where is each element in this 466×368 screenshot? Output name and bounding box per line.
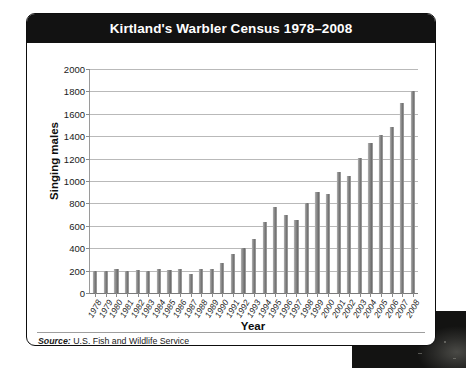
x-tick-mark: [106, 293, 107, 297]
y-axis-tick-1000: 1000: [64, 176, 85, 187]
bar-1999: [315, 192, 319, 293]
x-tick-mark: [275, 293, 276, 297]
y-axis-tick-1600: 1600: [64, 108, 85, 119]
x-tick-mark: [254, 293, 255, 297]
y-axis-tick-labels: 0200400600800100012001400160018002000: [51, 69, 85, 293]
x-tick-mark: [370, 293, 371, 297]
x-tick-mark: [212, 293, 213, 297]
bar-1990: [220, 263, 224, 293]
bar-2002: [347, 176, 351, 293]
bar-group-1992: 1992: [238, 69, 249, 293]
x-tick-mark: [307, 293, 308, 297]
bar-group-1990: 1990: [217, 69, 228, 293]
x-tick-mark: [116, 293, 117, 297]
bar-group-1989: 1989: [206, 69, 217, 293]
x-tick-mark: [243, 293, 244, 297]
bar-1979: [104, 271, 108, 293]
y-axis-tick-400: 400: [69, 243, 85, 254]
y-axis-tick-0: 0: [80, 288, 85, 299]
bar-2001: [337, 172, 341, 293]
x-tick-mark: [222, 293, 223, 297]
bar-1991: [231, 254, 235, 293]
bar-1992: [241, 248, 245, 293]
bar-group-1996: 1996: [280, 69, 291, 293]
bar-1982: [136, 270, 140, 293]
source-text: U.S. Fish and Wildlife Service: [73, 336, 189, 346]
bar-group-1978: 1978: [90, 69, 101, 293]
x-tick-mark: [265, 293, 266, 297]
bar-group-1999: 1999: [312, 69, 323, 293]
bar-group-2008: 2008: [407, 69, 418, 293]
x-tick-mark: [360, 293, 361, 297]
bar-2007: [400, 103, 404, 293]
x-tick-mark: [381, 293, 382, 297]
bar-1987: [188, 274, 192, 293]
bar-1998: [305, 203, 309, 293]
bar-2004: [368, 143, 372, 293]
chart-title: Kirtland's Warbler Census 1978–2008: [110, 21, 353, 36]
x-tick-mark: [138, 293, 139, 297]
bar-1997: [294, 220, 298, 293]
x-tick-mark: [339, 293, 340, 297]
y-axis-tick-2000: 2000: [64, 64, 85, 75]
bar-1986: [178, 269, 182, 293]
bar-1981: [125, 271, 129, 293]
x-tick-mark: [317, 293, 318, 297]
bar-group-2006: 2006: [386, 69, 397, 293]
bar-group-1979: 1979: [101, 69, 112, 293]
x-tick-mark: [349, 293, 350, 297]
bar-group-2003: 2003: [355, 69, 366, 293]
x-tick-mark: [191, 293, 192, 297]
bar-group-1991: 1991: [228, 69, 239, 293]
source-note: Source: U.S. Fish and Wildlife Service: [38, 336, 189, 346]
bar-group-1982: 1982: [132, 69, 143, 293]
bar-1983: [146, 271, 150, 293]
bar-group-1984: 1984: [153, 69, 164, 293]
x-tick-mark: [296, 293, 297, 297]
x-tick-mark: [402, 293, 403, 297]
y-tick-mark: [86, 293, 90, 294]
bar-group-2002: 2002: [344, 69, 355, 293]
y-axis-tick-600: 600: [69, 220, 85, 231]
y-axis-tick-800: 800: [69, 198, 85, 209]
bar-group-1997: 1997: [291, 69, 302, 293]
bar-1988: [199, 269, 203, 293]
bar-group-2000: 2000: [323, 69, 334, 293]
bar-group-1981: 1981: [122, 69, 133, 293]
bar-2003: [358, 158, 362, 293]
x-tick-mark: [127, 293, 128, 297]
bar-group-2007: 2007: [397, 69, 408, 293]
chart-title-bar: Kirtland's Warbler Census 1978–2008: [27, 14, 435, 43]
bar-group-1995: 1995: [270, 69, 281, 293]
bar-2006: [389, 127, 393, 293]
bar-group-1998: 1998: [302, 69, 313, 293]
y-axis-tick-1800: 1800: [64, 86, 85, 97]
x-tick-mark: [169, 293, 170, 297]
source-divider: [37, 332, 425, 333]
bar-1989: [210, 269, 214, 293]
y-axis-tick-1200: 1200: [64, 153, 85, 164]
plot-area-wrapper: Singing males 02004006008001000120014001…: [27, 43, 435, 346]
x-tick-mark: [233, 293, 234, 297]
bar-1993: [252, 239, 256, 293]
x-tick-mark: [392, 293, 393, 297]
bar-group-2004: 2004: [365, 69, 376, 293]
bar-group-1985: 1985: [164, 69, 175, 293]
x-tick-mark: [95, 293, 96, 297]
y-axis-tick-1400: 1400: [64, 131, 85, 142]
x-tick-mark: [413, 293, 414, 297]
bar-1985: [167, 270, 171, 293]
x-tick-mark: [201, 293, 202, 297]
bar-1984: [157, 269, 161, 293]
bar-1980: [114, 269, 118, 293]
x-axis-label: Year: [89, 320, 417, 332]
y-axis-tick-200: 200: [69, 265, 85, 276]
bar-series: 1978197919801981198219831984198519861987…: [90, 69, 418, 293]
x-tick-mark: [159, 293, 160, 297]
x-tick-mark: [148, 293, 149, 297]
bar-group-1987: 1987: [185, 69, 196, 293]
plot-area: 1978197919801981198219831984198519861987…: [89, 69, 418, 294]
bar-group-1986: 1986: [175, 69, 186, 293]
bar-group-1983: 1983: [143, 69, 154, 293]
x-tick-mark: [328, 293, 329, 297]
